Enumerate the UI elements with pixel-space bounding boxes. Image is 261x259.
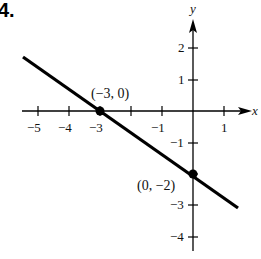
point-label-y-intercept: (0, −2) [137,178,176,194]
x-tick-label: −5 [27,120,41,135]
x-axis-label: x [251,103,258,118]
x-tick-label: −3 [89,120,103,135]
point-y-intercept [189,170,198,179]
y-tick-label: −3 [170,197,184,212]
line-series [23,57,238,208]
x-tick-label: −1 [151,120,165,135]
graph: 4. x y −5 −4 −3 −1 1 2 1 −1 −3 −4 (−3, 0… [0,0,261,259]
y-tick-label: −4 [170,229,184,244]
x-tick-label: 1 [221,120,228,135]
point-x-intercept [96,107,105,116]
x-tick-label: −4 [58,120,72,135]
y-tick-label: 2 [178,40,185,55]
y-tick-label: 1 [178,72,185,87]
y-tick-label: −1 [170,135,184,150]
y-axis-label: y [188,1,196,16]
point-label-x-intercept: (−3, 0) [91,86,130,102]
problem-number: 4. [0,0,15,21]
